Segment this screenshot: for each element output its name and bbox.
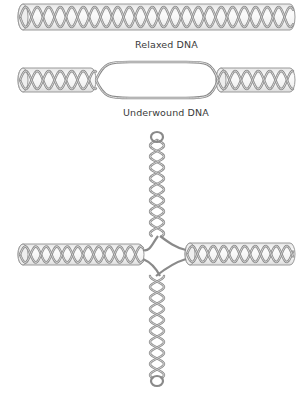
underwound-dna-helix	[18, 62, 295, 98]
cruciform-dna	[18, 132, 295, 386]
holliday-junction	[143, 236, 186, 276]
underwound-dna-label: Underwound DNA	[123, 107, 209, 118]
dna-diagram-canvas	[0, 0, 301, 394]
strand-separation-bubble	[96, 62, 218, 98]
dna-supercoiling-figure: Relaxed DNA Underwound DNA	[0, 0, 301, 394]
hairpin-helices	[150, 132, 164, 386]
relaxed-dna-helix	[18, 4, 295, 30]
relaxed-dna-label: Relaxed DNA	[135, 39, 198, 50]
